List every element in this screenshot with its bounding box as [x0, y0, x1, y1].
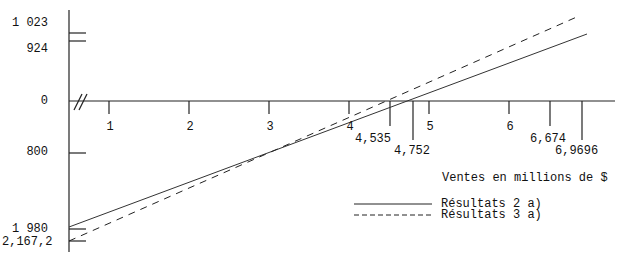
x-tick-label-6: 6	[506, 121, 513, 133]
y-label-1980: 1 980	[0, 223, 48, 235]
x-tick-label-2: 2	[186, 121, 193, 133]
x-point-label-4752: 4,752	[394, 145, 430, 157]
y-label-800: 800	[0, 146, 48, 158]
y-label-0: 0	[0, 95, 48, 107]
x-tick-label-5: 5	[426, 121, 433, 133]
axis-break-icon	[74, 94, 87, 110]
legend-label-dashed: Résultats 3 a)	[441, 209, 542, 221]
y-label-924: 924	[0, 43, 48, 55]
x-tick-label-4: 4	[346, 121, 353, 133]
x-axis-title: Ventes en millions de $	[442, 172, 608, 184]
y-label-1023: 1 023	[0, 17, 48, 29]
x-tick-label-1: 1	[106, 121, 113, 133]
x-point-label-4535: 4,535	[355, 133, 391, 145]
y-ticks	[69, 33, 86, 241]
x-tick-label-3: 3	[266, 121, 273, 133]
y-label-2167: 2,167,2	[2, 236, 52, 248]
x-point-label-69696: 6,9696	[555, 145, 598, 157]
